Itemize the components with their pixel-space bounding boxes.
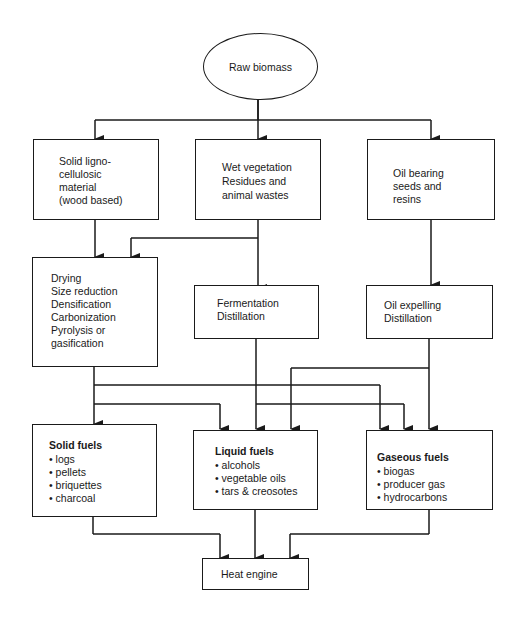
wet-source-line-3: animal wastes [222, 188, 292, 202]
oil-bearing-seeds-node: Oil bearing seeds and resins [367, 139, 495, 220]
heat-engine-node: Heat engine [202, 558, 309, 590]
process-fermentation: Fermentation [217, 297, 279, 310]
wet-source-line-1: Wet vegetation [222, 160, 292, 174]
oil-source-line-3: resins [393, 193, 444, 206]
process-gasification: gasification [51, 337, 118, 350]
liquid-fuel-alcohols: alcohols [215, 459, 297, 472]
heat-engine-label: Heat engine [221, 568, 278, 581]
solid-source-line-3: material [59, 181, 123, 194]
process-distillation-1: Distillation [217, 310, 279, 323]
solid-source-line-1: Solid ligno- [59, 155, 123, 168]
process-drying: Drying [51, 272, 118, 285]
gaseous-fuels-node: Gaseous fuels biogas producer gas hydroc… [366, 430, 493, 510]
raw-biomass-node: Raw biomass [203, 33, 318, 100]
solid-fuel-logs: logs [49, 453, 102, 466]
biomass-flowchart: Raw biomass Solid ligno- cellulosic mate… [0, 0, 522, 620]
gaseous-fuel-hydrocarbons: hydrocarbons [377, 491, 449, 504]
gaseous-fuel-biogas: biogas [377, 465, 449, 478]
solid-source-line-4: (wood based) [59, 194, 123, 207]
wet-source-line-2: Residues and [222, 174, 292, 188]
gaseous-fuel-producer-gas: producer gas [377, 478, 449, 491]
raw-biomass-label: Raw biomass [229, 61, 292, 73]
oil-expelling-node: Oil expelling Distillation [366, 285, 493, 339]
process-size-reduction: Size reduction [51, 285, 118, 298]
thermal-processing-node: Drying Size reduction Densification Carb… [32, 257, 158, 367]
liquid-fuel-tars-creosotes: tars & creosotes [215, 485, 297, 498]
solid-source-line-2: cellulosic [59, 168, 123, 181]
process-carbonization: Carbonization [51, 311, 118, 324]
oil-source-line-2: seeds and [393, 180, 444, 193]
process-densification: Densification [51, 298, 118, 311]
solid-fuels-node: Solid fuels logs pellets briquettes char… [32, 424, 157, 517]
liquid-fuel-vegetable-oils: vegetable oils [215, 472, 297, 485]
process-pyrolysis: Pyrolysis or [51, 324, 118, 337]
solid-fuel-pellets: pellets [49, 466, 102, 479]
liquid-fuels-node: Liquid fuels alcohols vegetable oils tar… [193, 430, 318, 510]
process-oil-expelling: Oil expelling [384, 299, 441, 312]
solid-fuels-title: Solid fuels [49, 439, 102, 452]
process-distillation-2: Distillation [384, 312, 441, 325]
gaseous-fuels-title: Gaseous fuels [377, 451, 449, 464]
liquid-fuels-title: Liquid fuels [215, 445, 297, 458]
fermentation-node: Fermentation Distillation [194, 285, 319, 339]
solid-lignocellulosic-node: Solid ligno- cellulosic material (wood b… [33, 139, 159, 220]
wet-vegetation-node: Wet vegetation Residues and animal waste… [195, 139, 321, 220]
solid-fuel-briquettes: briquettes [49, 479, 102, 492]
oil-source-line-1: Oil bearing [393, 167, 444, 180]
solid-fuel-charcoal: charcoal [49, 492, 102, 505]
